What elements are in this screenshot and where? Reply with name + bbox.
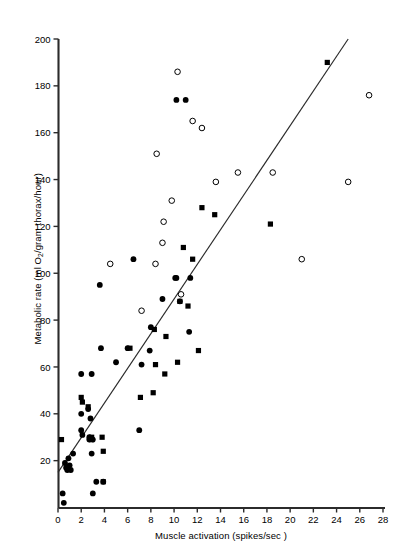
data-point-filled-circle <box>113 359 119 365</box>
y-tick-label: 180 <box>35 80 51 91</box>
x-tick-label: 26 <box>354 514 365 525</box>
data-point-filled-square <box>212 212 217 217</box>
data-point-filled-circle <box>70 451 76 457</box>
x-tick-label: 6 <box>125 514 130 525</box>
data-point-open-circle <box>169 198 175 204</box>
data-point-open-circle <box>160 240 166 246</box>
data-point-filled-square <box>80 399 85 404</box>
data-point-open-circle <box>139 308 145 314</box>
data-point-open-circle <box>161 219 167 225</box>
x-tick-label: 4 <box>102 514 107 525</box>
data-point-filled-circle <box>131 256 137 262</box>
data-point-filled-square <box>185 303 190 308</box>
data-point-filled-circle <box>79 432 85 438</box>
data-point-filled-circle <box>97 282 103 288</box>
y-axis-label-post: /gram thorax/hour) <box>32 173 43 253</box>
data-point-filled-circle <box>173 97 179 103</box>
data-point-filled-square <box>162 371 167 376</box>
x-tick-label: 8 <box>148 514 153 525</box>
data-point-filled-circle <box>89 371 95 377</box>
x-tick-label: 2 <box>79 514 84 525</box>
x-tick-label: 12 <box>192 514 203 525</box>
data-point-open-circle <box>153 261 159 267</box>
data-point-filled-square <box>163 334 168 339</box>
x-tick-label: 0 <box>55 514 60 525</box>
data-point-filled-circle <box>187 275 193 281</box>
data-point-filled-square <box>199 205 204 210</box>
data-point-filled-square <box>127 346 132 351</box>
y-tick-label: 200 <box>35 34 51 45</box>
data-point-open-circle <box>270 170 276 176</box>
data-point-filled-square <box>268 221 273 226</box>
data-points <box>59 60 372 506</box>
data-point-filled-square <box>181 245 186 250</box>
data-point-filled-square <box>79 395 84 400</box>
data-point-filled-circle <box>160 296 166 302</box>
y-tick-label: 40 <box>40 408 51 419</box>
data-point-filled-square <box>175 360 180 365</box>
data-point-filled-circle <box>183 97 189 103</box>
data-point-filled-square <box>86 404 91 409</box>
data-point-filled-circle <box>68 467 74 473</box>
data-point-filled-square <box>100 435 105 440</box>
x-tick-label: 24 <box>331 514 342 525</box>
data-point-open-circle <box>235 170 241 176</box>
data-point-open-circle <box>299 256 305 262</box>
data-point-open-circle <box>345 179 351 185</box>
data-point-filled-circle <box>88 416 94 422</box>
data-point-filled-circle <box>139 362 145 368</box>
data-point-open-circle <box>190 118 196 124</box>
data-point-filled-square <box>153 362 158 367</box>
data-point-filled-circle <box>172 275 178 281</box>
data-point-filled-circle <box>186 329 192 335</box>
data-point-filled-circle <box>78 411 84 417</box>
data-point-filled-square <box>89 437 94 442</box>
trendline <box>58 39 348 472</box>
data-point-open-circle <box>154 151 160 157</box>
data-point-filled-circle <box>90 491 96 497</box>
data-point-filled-circle <box>147 348 153 354</box>
data-point-filled-square <box>59 437 64 442</box>
data-point-filled-square <box>138 395 143 400</box>
axes: 2040608010012014016018020002468101214161… <box>35 34 389 525</box>
data-point-filled-circle <box>66 455 72 461</box>
y-axis-label-pre: Metabolic rate (ml O <box>32 257 43 345</box>
data-point-filled-square <box>190 257 195 262</box>
y-axis-label: Metabolic rate (ml O2/gram thorax/hour) <box>32 129 44 389</box>
data-point-filled-square <box>101 449 106 454</box>
x-tick-label: 14 <box>215 514 226 525</box>
x-tick-label: 10 <box>169 514 180 525</box>
data-point-filled-circle <box>78 371 84 377</box>
x-tick-label: 20 <box>285 514 296 525</box>
x-tick-label: 28 <box>378 514 389 525</box>
data-point-filled-square <box>325 60 330 65</box>
x-axis-label: Muscle activation (spikes/sec ) <box>58 530 384 541</box>
data-point-filled-square <box>196 348 201 353</box>
data-point-filled-square <box>101 479 106 484</box>
data-point-open-circle <box>107 261 113 267</box>
data-point-filled-circle <box>61 500 67 506</box>
y-tick-label: 20 <box>40 455 51 466</box>
data-point-filled-circle <box>89 451 95 457</box>
data-point-filled-circle <box>93 479 99 485</box>
data-point-filled-circle <box>136 427 142 433</box>
data-point-open-circle <box>366 92 372 98</box>
x-tick-label: 18 <box>262 514 273 525</box>
data-point-filled-circle <box>60 491 66 497</box>
data-point-filled-circle <box>98 345 104 351</box>
x-tick-label: 16 <box>238 514 249 525</box>
chart-figure: 2040608010012014016018020002468101214161… <box>0 0 402 554</box>
data-point-filled-square <box>151 390 156 395</box>
data-point-open-circle <box>199 125 205 131</box>
x-tick-label: 22 <box>308 514 319 525</box>
y-axis-label-sub: 2 <box>37 253 44 257</box>
regression-line <box>58 39 348 472</box>
data-point-filled-square <box>177 299 182 304</box>
scatter-plot: 2040608010012014016018020002468101214161… <box>0 0 402 554</box>
data-point-filled-square <box>152 327 157 332</box>
data-point-open-circle <box>175 69 181 75</box>
data-point-open-circle <box>178 292 184 298</box>
data-point-open-circle <box>213 179 219 185</box>
